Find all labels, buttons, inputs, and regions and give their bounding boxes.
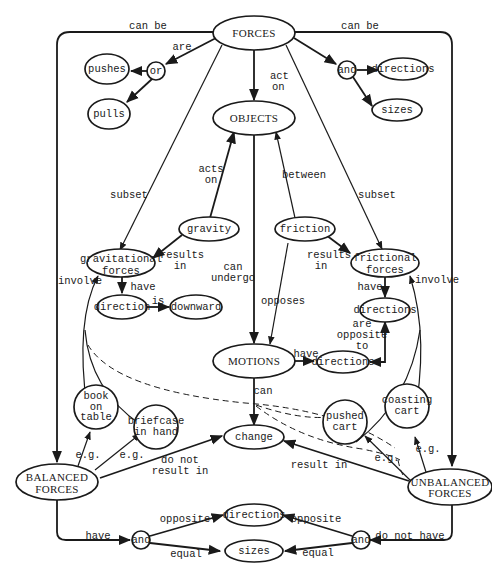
node-label: frictional [353, 252, 416, 264]
node-label: sizes [381, 104, 413, 116]
edge-forces-and [294, 38, 336, 64]
node-unbalanced-forces: UNBALANCED FORCES [408, 469, 492, 505]
node-book-on-table: book on table [74, 385, 118, 429]
link-label: e.g. [119, 449, 144, 461]
link-label: do not have [375, 530, 444, 542]
node-label: directions [311, 356, 374, 368]
concept-map: FORCES pushes or pulls and directions si… [0, 0, 492, 575]
link-label: opposes [261, 295, 305, 307]
node-downward: downward [170, 295, 222, 319]
link-label: in [315, 260, 328, 272]
node-label: and [352, 534, 371, 546]
node-label: FORCES [232, 27, 275, 39]
node-label: BALANCED [26, 471, 88, 483]
node-label: forces [366, 264, 404, 276]
node-label: downward [171, 301, 221, 313]
node-coasting-cart: coasting cart [382, 384, 432, 428]
link-label: on [272, 81, 285, 93]
edge-friction-motions [270, 243, 288, 344]
node-label: cart [394, 405, 419, 417]
node-gravity: gravity [179, 217, 239, 241]
link-label: equal [170, 548, 202, 560]
node-label: change [235, 431, 273, 443]
node-briefcase-in-hand: briefcase in hand [128, 405, 185, 449]
node-label: gravitational [80, 253, 162, 265]
link-label: between [282, 169, 326, 181]
node-directions-bottom: directions [222, 504, 285, 526]
link-label: involve [415, 274, 459, 286]
link-label: subset [110, 189, 148, 201]
node-label: gravity [187, 223, 231, 235]
node-pushed-cart: pushed cart [323, 400, 367, 444]
node-label: table [80, 411, 112, 423]
node-label: friction [280, 223, 330, 235]
link-label: subset [358, 189, 396, 201]
node-or: or [147, 62, 165, 80]
node-change: change [224, 425, 284, 449]
node-label: pushes [88, 63, 126, 75]
link-label: in [174, 260, 187, 272]
node-label: forces [102, 265, 140, 277]
link-label: e.g. [75, 449, 100, 461]
node-label: cart [332, 421, 357, 433]
node-gravitational-forces: gravitational forces [80, 249, 162, 277]
link-label: e.g. [415, 443, 440, 455]
link-label: involve [58, 275, 102, 287]
link-label: results [307, 249, 351, 261]
link-label: are [173, 41, 192, 53]
node-label: direction [94, 301, 151, 313]
link-label: can be [341, 20, 379, 32]
edge-or-pulls [127, 79, 152, 102]
node-objects: OBJECTS [213, 101, 295, 135]
node-label: and [338, 64, 357, 76]
link-label: opposite [291, 513, 341, 525]
node-sizes-bottom: sizes [225, 540, 283, 562]
link-label: undergo [211, 272, 255, 284]
edge-and-sizes [353, 77, 372, 106]
node-pulls: pulls [88, 99, 130, 129]
node-forces: FORCES [213, 16, 295, 50]
node-direction: direction [94, 295, 151, 319]
node-label: MOTIONS [228, 355, 280, 367]
node-friction: friction [275, 217, 335, 241]
link-label: can [254, 385, 273, 397]
link-label: have [357, 281, 382, 293]
node-label: directions [353, 304, 416, 316]
link-label: have [85, 530, 110, 542]
link-label: have [293, 348, 318, 360]
link-label: can be [129, 20, 167, 32]
node-label: in hand [134, 426, 178, 438]
node-directions-top: directions [371, 58, 434, 80]
node-label: directions [222, 509, 285, 521]
node-label: and [132, 534, 151, 546]
node-and-top: and [338, 61, 357, 79]
node-and-right: and [352, 531, 371, 549]
link-label: to [356, 340, 369, 352]
link-label: equal [302, 547, 334, 559]
node-label: directions [371, 63, 434, 75]
link-label: opposite [160, 513, 210, 525]
node-pushes: pushes [85, 54, 129, 84]
node-label: pulls [93, 108, 125, 120]
dashed-curve-mid [256, 405, 330, 418]
link-label: result in [291, 459, 348, 471]
link-label: is [152, 295, 165, 307]
link-label: have [130, 281, 155, 293]
node-label: FORCES [35, 483, 78, 495]
link-label: result in [152, 465, 209, 477]
link-label: on [205, 174, 218, 186]
node-balanced-forces: BALANCED FORCES [16, 464, 98, 500]
node-sizes-top: sizes [372, 99, 422, 121]
node-label: FORCES [428, 487, 471, 499]
node-frictional-forces: frictional forces [351, 249, 419, 277]
link-label: e.g. [374, 452, 399, 464]
node-label: sizes [238, 545, 270, 557]
node-label: OBJECTS [230, 112, 279, 124]
node-directions-mid: directions [311, 351, 374, 373]
node-label: or [150, 65, 163, 77]
node-motions: MOTIONS [213, 344, 295, 378]
node-and-left: and [132, 531, 151, 549]
